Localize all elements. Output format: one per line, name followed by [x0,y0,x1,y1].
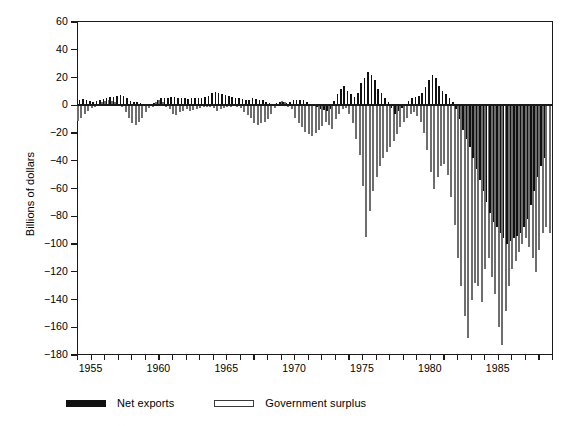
bar-ne [330,105,332,109]
bar-gs [125,105,127,112]
bar-ne [323,105,325,110]
x-tick-mark [511,355,512,360]
bar-gs [186,105,188,109]
bar-ne [357,93,359,105]
x-tick-label: 1965 [214,362,238,374]
y-tick-mark [71,327,77,328]
bar-gs [148,105,150,108]
x-tick-mark [308,355,309,360]
bar-ne [496,105,498,227]
bar-ne [401,105,403,108]
bar-ne [483,105,485,191]
bar-ne [442,91,444,105]
x-tick-mark [294,355,295,360]
bar-gs [423,105,425,133]
bar-gs [355,105,357,138]
bar-ne [527,105,529,219]
bar-ne [432,75,434,106]
x-tick-mark [213,355,214,360]
y-tick-label: 20 [56,71,68,83]
bar-ne [533,105,535,191]
bar-gs [189,105,191,111]
legend-item-government-surplus: Government surplus [214,397,366,409]
y-tick-label: −120 [44,265,68,277]
y-tick-mark [71,299,77,300]
bar-ne [472,105,474,158]
x-tick-mark [348,355,349,360]
bar-gs [399,105,401,127]
x-tick-mark [226,355,227,360]
bar-gs [308,105,310,134]
bar-gs [460,105,462,285]
bar-gs [294,105,296,117]
bar-ne [381,93,383,105]
bar-gs [267,105,269,119]
y-tick-mark [71,160,77,161]
x-tick-mark [430,355,431,360]
bar-gs [376,105,378,177]
bar-gs [437,105,439,177]
bar-gs [87,105,89,111]
bar-gs [257,105,259,124]
bar-ne [466,105,468,138]
x-tick-mark [172,355,173,360]
x-tick-mark [552,355,553,360]
bar-gs [389,105,391,147]
x-tick-mark [186,355,187,360]
bar-gs [172,105,174,113]
bar-gs [454,105,456,224]
bar-ne [530,105,532,205]
x-tick-label: 1985 [486,362,510,374]
bar-gs [253,105,255,123]
x-tick-mark [457,355,458,360]
bar-gs [365,105,367,237]
bar-gs [311,105,313,136]
bar-gs [199,105,201,108]
bar-ne [455,105,457,109]
bar-ne [516,105,518,235]
bar-gs [440,105,442,166]
bar-gs [223,105,225,108]
bar-gs [77,105,79,120]
bar-gs [135,105,137,124]
x-tick-label: 1955 [79,362,103,374]
x-tick-mark [443,355,444,360]
bar-gs [345,105,347,108]
bar-ne [506,105,508,244]
bar-ne [513,105,515,238]
y-tick-mark [71,243,77,244]
bar-ne [215,92,217,105]
bar-gs [304,105,306,131]
x-tick-mark [389,355,390,360]
y-tick-mark [71,105,77,106]
bar-gs [298,105,300,123]
bar-ne [500,105,502,233]
bar-ne [462,105,464,130]
bar-ne [320,105,322,109]
bar-gs [416,105,418,116]
x-tick-mark [525,355,526,360]
bars-layer [77,22,552,355]
bar-ne [347,91,349,105]
bar-ne [523,105,525,227]
bar-ne [391,105,393,108]
x-tick-mark [376,355,377,360]
bar-ne [394,105,396,113]
bar-ne [374,80,376,105]
bar-gs [145,105,147,112]
bar-gs [131,105,133,123]
bar-gs [264,105,266,122]
bar-gs [372,105,374,191]
bar-ne [544,105,546,158]
x-tick-mark [416,355,417,360]
x-tick-mark [118,355,119,360]
bar-gs [450,105,452,197]
bar-gs [406,105,408,117]
bar-ne [377,89,379,106]
y-tick-mark [71,21,77,22]
bar-gs [138,105,140,122]
x-tick-mark [158,355,159,360]
bar-gs [549,105,551,233]
y-tick-mark [71,49,77,50]
y-tick-label: −140 [44,293,68,305]
